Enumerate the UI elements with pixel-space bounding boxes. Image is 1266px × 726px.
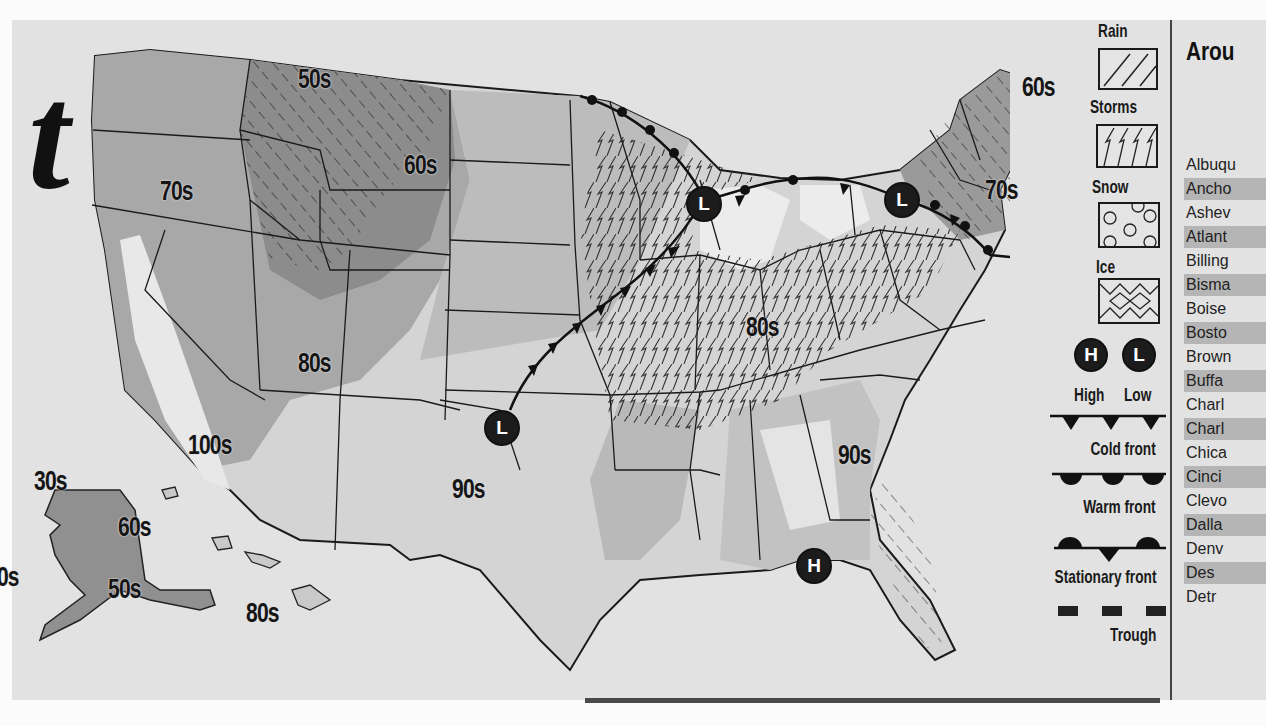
city-row: Buffa — [1184, 370, 1266, 392]
low-pressure-icon: L — [484, 410, 520, 446]
high-pressure-icon: H — [796, 548, 832, 584]
legend-stationary-front-label: Stationary front — [1054, 566, 1156, 588]
temp-label: 50s — [108, 574, 141, 605]
city-row: Ancho — [1184, 178, 1266, 200]
ice-pattern-icon — [1098, 278, 1160, 324]
temp-label: 100s — [188, 430, 232, 461]
city-row: Cinci — [1184, 466, 1266, 488]
temp-label: 80s — [298, 348, 331, 379]
legend-snow-label: Snow — [1092, 176, 1128, 198]
legend-storms-label: Storms — [1090, 96, 1137, 118]
legend-cold-front-label: Cold front — [1091, 438, 1156, 460]
city-row: Boise — [1184, 298, 1266, 320]
temp-label: 30s — [34, 466, 67, 497]
city-row: Ashev — [1184, 202, 1266, 224]
city-row: Atlant — [1184, 226, 1266, 248]
city-row: Brown — [1184, 346, 1266, 368]
low-pressure-icon: L — [884, 182, 920, 218]
us-weather-map — [0, 0, 1010, 726]
rain-pattern-icon — [1098, 48, 1158, 90]
around-the-nation-panel: Arou Albuqu Ancho Ashev Atlant Billing B… — [1184, 20, 1266, 700]
legend-ice-label: Ice — [1096, 256, 1115, 278]
legend-warm-front-label: Warm front — [1084, 496, 1156, 518]
city-row: Charl — [1184, 394, 1266, 416]
legend-low-icon: L — [1122, 338, 1156, 372]
city-row: Albuqu — [1184, 154, 1266, 176]
legend-rain-label: Rain — [1098, 20, 1128, 42]
cold-front-symbol-icon — [1050, 412, 1166, 434]
temp-label: 80s — [746, 312, 779, 343]
city-row: Billing — [1184, 250, 1266, 272]
city-row: Bisma — [1184, 274, 1266, 296]
warm-front-symbol-icon — [1052, 470, 1166, 492]
city-row: Bosto — [1184, 322, 1266, 344]
temp-label: 70s — [160, 176, 193, 207]
city-row: Dalla — [1184, 514, 1266, 536]
column-divider — [1170, 20, 1172, 700]
city-row: Clevo — [1184, 490, 1266, 512]
trough-symbol-icon — [1058, 604, 1166, 618]
legend-high-icon: H — [1074, 338, 1108, 372]
stationary-front-symbol-icon — [1054, 534, 1166, 564]
city-row: Charl — [1184, 418, 1266, 440]
map-legend: Rain Storms Snow Ice H L High Low Cold f… — [1010, 20, 1160, 700]
bottom-rule — [585, 698, 1160, 703]
temp-label: 90s — [838, 440, 871, 471]
temp-label: 60s — [118, 512, 151, 543]
city-row: Des — [1184, 562, 1266, 584]
legend-low-label: Low — [1124, 384, 1151, 406]
city-row: Detr — [1184, 586, 1266, 608]
legend-trough-label: Trough — [1110, 624, 1156, 646]
temp-label: 60s — [404, 150, 437, 181]
around-title: Arou — [1186, 36, 1235, 67]
temp-label: 40s — [0, 562, 19, 593]
temp-label: 50s — [298, 64, 331, 95]
low-pressure-icon: L — [686, 186, 722, 222]
city-row: Denv — [1184, 538, 1266, 560]
storms-pattern-icon — [1096, 124, 1158, 168]
temp-label: 80s — [246, 598, 279, 629]
snow-pattern-icon — [1098, 202, 1160, 248]
temp-label: 90s — [452, 474, 485, 505]
city-row: Chica — [1184, 442, 1266, 464]
legend-high-label: High — [1074, 384, 1104, 406]
